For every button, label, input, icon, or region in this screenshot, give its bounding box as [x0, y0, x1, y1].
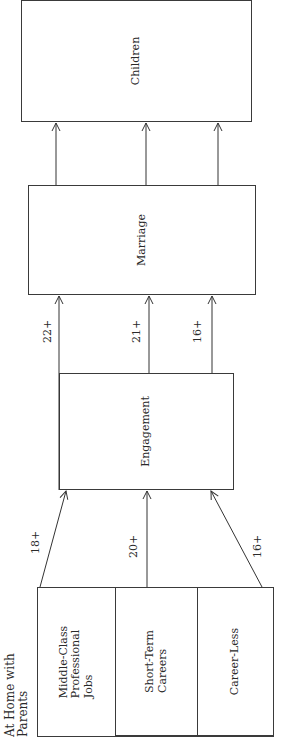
- edge-label-16-engagement: 16+: [191, 320, 204, 343]
- edge-label-22: 22+: [41, 320, 54, 343]
- edge-label-18: 18+: [29, 531, 42, 554]
- edge-label-20: 20+: [127, 535, 140, 558]
- diagram-canvas: At Home with Parents Middle-Class Profes…: [0, 0, 283, 754]
- edge-label-16-origin: 16+: [251, 535, 264, 558]
- edge-label-21: 21+: [130, 320, 143, 343]
- arrow-middle-class-to-engagement: [40, 491, 66, 587]
- connector-arrows: [0, 0, 283, 754]
